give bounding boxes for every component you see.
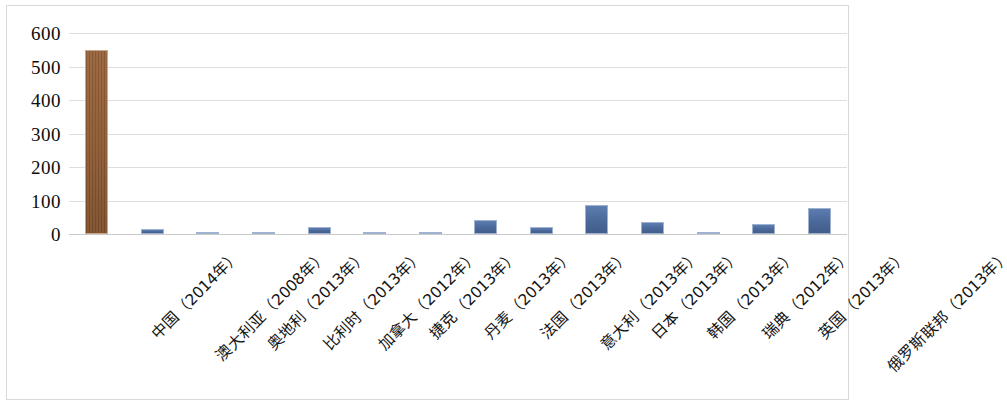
plot-area <box>69 33 847 234</box>
bar[interactable] <box>585 205 608 234</box>
y-tick-label: 600 <box>31 24 61 43</box>
bar[interactable] <box>808 208 831 234</box>
bars-layer <box>69 33 847 234</box>
y-tick-label: 300 <box>31 124 61 143</box>
chart-frame: 0100200300400500600 中国（2014年）澳大利亚（2008年）… <box>6 5 849 400</box>
y-tick-label: 400 <box>31 91 61 110</box>
y-axis: 0100200300400500600 <box>7 6 69 234</box>
y-tick-label: 100 <box>31 191 61 210</box>
y-tick-label: 500 <box>31 57 61 76</box>
bar[interactable] <box>85 50 108 234</box>
x-axis: 中国（2014年）澳大利亚（2008年）奥地利（2013年）比利时（2013年）… <box>69 234 847 399</box>
bar[interactable] <box>530 227 553 234</box>
y-tick-label: 0 <box>51 225 61 244</box>
bar[interactable] <box>308 227 331 234</box>
x-tick-label: 中国（2014年） <box>145 244 244 343</box>
y-tick-label: 200 <box>31 158 61 177</box>
bar[interactable] <box>641 222 664 234</box>
bar[interactable] <box>752 224 775 234</box>
bar[interactable] <box>474 220 497 234</box>
